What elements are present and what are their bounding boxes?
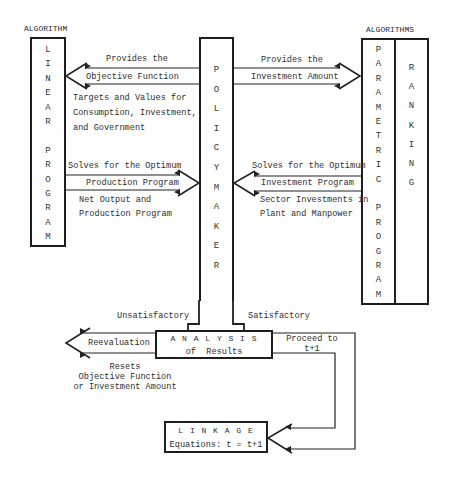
reevaluation-note-line: or Investment Amount	[70, 382, 180, 392]
objective-note-line: Targets and Values for	[73, 91, 186, 105]
linear-program-letter: E	[45, 86, 50, 100]
policy-maker-letter: E	[214, 237, 219, 257]
linear-program-box: L I N E A R P R O G R A M	[30, 37, 66, 247]
parametric-letter: I	[376, 158, 381, 172]
parametric-letter: R	[376, 72, 381, 86]
linear-program-letter: A	[45, 101, 50, 115]
right-algorithms-heading: ALGORITHMS	[366, 25, 414, 34]
analysis-subtitle: of Results	[157, 345, 271, 359]
policy-maker-letter: Y	[214, 159, 219, 179]
linear-program-letter: R	[45, 115, 50, 129]
reevaluation-note-line: Resets	[70, 362, 180, 372]
linear-program-letter: G	[45, 187, 50, 201]
satisfactory-label: Satisfactory	[248, 309, 310, 323]
parametric-letter: A	[376, 57, 381, 71]
production-arrow-above-label: Solves for the Optimum	[68, 159, 181, 173]
objective-arrow-above-label: Provides the	[106, 52, 168, 66]
objective-note-line: and Government	[73, 121, 145, 135]
parametric-letter: M	[376, 288, 381, 302]
proceed-label: Proceed to t+1	[276, 334, 348, 354]
proceed-label-line: Proceed to	[276, 334, 348, 344]
linear-program-letter: N	[45, 72, 50, 86]
left-algorithm-heading: ALGORITHM	[24, 24, 67, 33]
parametric-letter: O	[376, 230, 381, 244]
ranking-letter: N	[409, 97, 414, 116]
linear-program-letter: L	[45, 43, 50, 57]
parametric-letter: R	[376, 259, 381, 273]
policy-maker-letter: P	[214, 61, 219, 81]
analysis-title: A N A L Y S I S	[157, 332, 271, 346]
parametric-letter: R	[376, 216, 381, 230]
linear-program-letter: I	[45, 57, 50, 71]
parametric-program-box: P A R A M E T R I C P R O G R A M	[361, 38, 396, 305]
investment-program-above-label: Solves for the Optimum	[252, 159, 365, 173]
policy-maker-letter: R	[214, 257, 219, 277]
linear-program-letter: R	[45, 201, 50, 215]
production-note-line: Net Output and	[79, 193, 151, 207]
objective-note-line: Consumption, Investment,	[73, 106, 197, 120]
analysis-of-results-box: A N A L Y S I S of Results	[155, 330, 273, 359]
parametric-letter: A	[376, 86, 381, 100]
policy-maker-letter: A	[214, 198, 219, 218]
parametric-letter: C	[376, 173, 381, 187]
ranking-box: R A N K I N G	[394, 38, 429, 305]
investment-program-inside-label: Investment Program	[261, 176, 354, 190]
policy-maker-box: P O L I C Y M A K E R	[199, 37, 234, 301]
parametric-letter: G	[376, 245, 381, 259]
parametric-letter: M	[376, 101, 381, 115]
parametric-letter: T	[376, 129, 381, 143]
linear-program-letter: O	[45, 173, 50, 187]
ranking-letter: R	[409, 59, 414, 78]
ranking-letter: K	[409, 117, 414, 136]
reevaluation-note: Resets Objective Function or Investment …	[70, 362, 180, 392]
linkage-equation: Equations: t = t+1	[166, 438, 266, 452]
linear-program-letter: R	[45, 158, 50, 172]
objective-arrow-inside-label: Objective Function	[86, 70, 179, 84]
reevaluation-note-line: Objective Function	[70, 372, 180, 382]
linear-program-letter: P	[45, 144, 50, 158]
policy-maker-letter: M	[214, 179, 219, 199]
linkage-title: L I N K A G E	[166, 424, 266, 438]
linear-program-letter: A	[45, 216, 50, 230]
investment-amount-above-label: Provides the	[261, 53, 323, 67]
parametric-letter: P	[376, 201, 381, 215]
policy-maker-letter: K	[214, 218, 219, 238]
parametric-letter: E	[376, 115, 381, 129]
production-note-line: Production Program	[79, 207, 172, 221]
parametric-letter: P	[376, 43, 381, 57]
linkage-equations-box: L I N K A G E Equations: t = t+1	[164, 421, 268, 453]
investment-amount-inside-label: Investment Amount	[251, 70, 339, 84]
investment-program-note-line: Plant and Manpower	[260, 207, 353, 221]
policy-maker-letter: O	[214, 81, 219, 101]
ranking-letter: N	[409, 155, 414, 174]
linear-program-letter: M	[45, 230, 50, 244]
unsatisfactory-label: Unsatisfactory	[117, 309, 189, 323]
ranking-letter: I	[409, 136, 414, 155]
ranking-letter: A	[409, 78, 414, 97]
production-arrow-inside-label: Production Program	[86, 176, 179, 190]
policy-maker-letter: C	[214, 139, 219, 159]
investment-program-note-line: Sector Investments in	[260, 193, 368, 207]
proceed-label-line: t+1	[276, 344, 348, 354]
policy-maker-letter: I	[214, 120, 219, 140]
policy-maker-letter: L	[214, 100, 219, 120]
parametric-letter: A	[376, 273, 381, 287]
reevaluation-label: Reevaluation	[88, 336, 150, 350]
ranking-letter: G	[409, 174, 414, 193]
parametric-letter: R	[376, 144, 381, 158]
